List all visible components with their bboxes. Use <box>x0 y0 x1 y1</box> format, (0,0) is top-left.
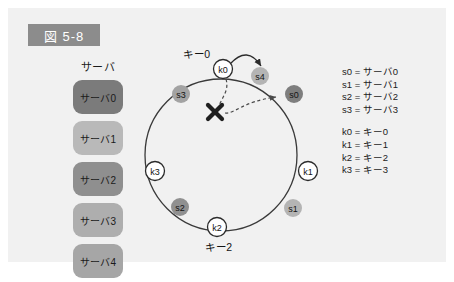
key0-label: キー0 <box>183 48 210 60</box>
ring-node-s2: s2 <box>171 198 189 216</box>
ring-node-label: k3 <box>150 167 160 177</box>
ring-node-group: k0s4s0k1s1k2s2k3s3 <box>146 60 318 237</box>
ring-node-label: s3 <box>176 90 186 100</box>
ring-node-s3: s3 <box>172 85 190 103</box>
failed-route-dashed-arrow <box>217 79 276 113</box>
ring-node-s4: s4 <box>251 67 269 85</box>
ring-node-label: s1 <box>288 204 298 214</box>
ring-node-k3: k3 <box>146 162 165 181</box>
ring-node-k1: k1 <box>299 162 318 181</box>
consistent-hash-ring-diagram: k0s4s0k1s1k2s2k3s3 キー0キー2 <box>8 8 446 262</box>
ring-node-label: k0 <box>218 65 228 75</box>
ring-node-k0: k0 <box>214 60 233 79</box>
failure-cross-icon <box>208 105 222 119</box>
ring-node-label: k2 <box>212 223 222 233</box>
ring-node-s0: s0 <box>285 85 303 103</box>
ring-node-s1: s1 <box>284 199 302 217</box>
ring-node-label: k1 <box>303 167 313 177</box>
ring-node-label: s0 <box>289 90 299 100</box>
key2-label: キー2 <box>205 241 232 253</box>
ring-node-k2: k2 <box>208 218 227 237</box>
figure-panel: 図 5-8 サーバ サーバ0 サーバ1 サーバ2 サーバ3 サーバ4 s0 = … <box>8 8 446 262</box>
ring-node-label: s4 <box>255 72 265 82</box>
reassignment-arrow <box>230 55 261 66</box>
ring-node-label: s2 <box>175 203 185 213</box>
